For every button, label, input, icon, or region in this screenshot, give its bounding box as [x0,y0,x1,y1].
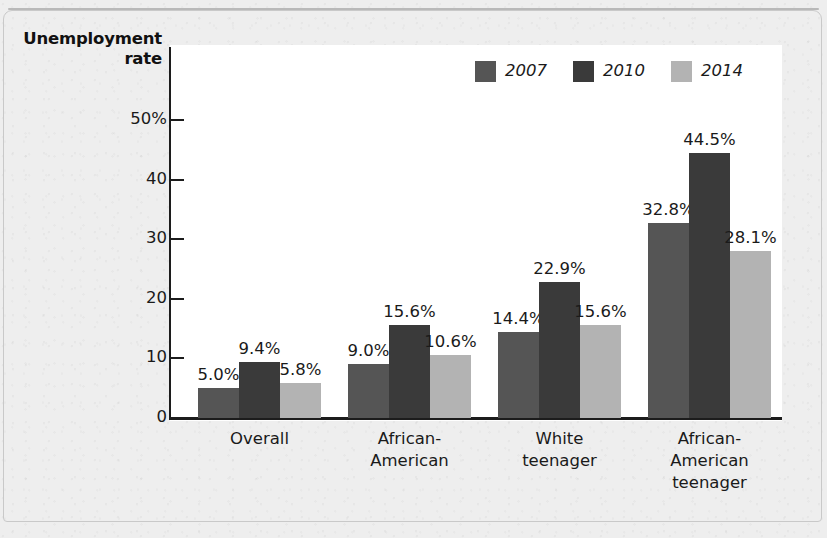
y-tick-label-40: 40 [47,171,167,188]
x-category-label-line: American [625,450,795,472]
x-axis-category-labels: OverallAfrican-AmericanWhiteteenagerAfri… [171,428,782,523]
x-category-label-line: African- [625,428,795,450]
bar-2007-african-american [348,364,389,418]
bar-2010-african-american-teenager [689,153,730,418]
y-axis-title-line-1: Unemployment [23,29,162,48]
bar-value-label-2010-african-american: 15.6% [376,304,444,321]
bar-2014-african-american [430,355,471,418]
y-tick-label-0: 0 [47,409,167,426]
x-category-label-african-american-teenager: African-Americanteenager [625,428,795,494]
bar-2014-overall [280,383,321,418]
bar-value-label-2014-african-american-teenager: 28.1% [717,230,785,247]
bar-2007-african-american-teenager [648,223,689,418]
x-category-label-overall: Overall [175,428,345,450]
x-category-label-line: African- [325,428,495,450]
figure-card: Unemployment rate 50%403020100 200720102… [0,0,827,538]
figure-top-rule [8,8,819,10]
x-category-label-line: White [475,428,645,450]
y-tick-label-10: 10 [47,349,167,366]
bar-value-label-2014-white-teenager: 15.6% [567,304,635,321]
x-category-label-line: American [325,450,495,472]
bar-2014-white-teenager [580,325,621,418]
bar-value-label-2014-overall: 5.8% [267,362,335,379]
bar-value-label-2010-african-american-teenager: 44.5% [676,132,744,149]
x-category-label-line: teenager [625,472,795,494]
x-category-label-line: teenager [475,450,645,472]
y-tick-label-20: 20 [47,290,167,307]
y-tick-label-30: 30 [47,230,167,247]
bar-value-label-2010-white-teenager: 22.9% [526,261,594,278]
y-tick-label-50: 50% [47,111,167,128]
bar-value-label-2014-african-american: 10.6% [417,334,485,351]
bar-2007-overall [198,388,239,418]
y-axis-title-line-2: rate [2,49,162,69]
bar-2014-african-american-teenager [730,251,771,418]
x-category-label-african-american: African-American [325,428,495,472]
bar-2007-white-teenager [498,332,539,418]
x-category-label-white-teenager: Whiteteenager [475,428,645,472]
x-category-label-line: Overall [175,428,345,450]
bars-layer: 5.0%9.4%5.8%9.0%15.6%10.6%14.4%22.9%15.6… [171,45,782,418]
bar-value-label-2010-overall: 9.4% [226,341,294,358]
y-axis-title: Unemployment rate [2,29,162,69]
